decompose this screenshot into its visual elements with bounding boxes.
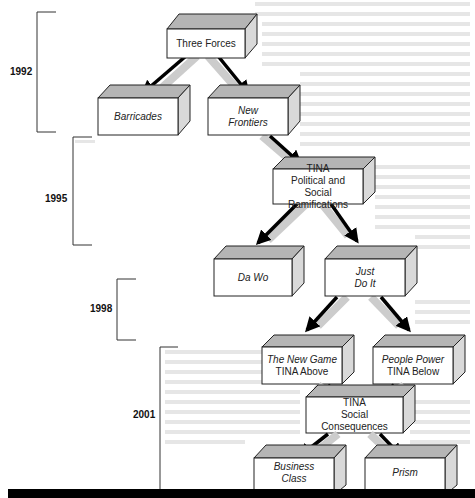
label-line: People Power <box>382 354 444 366</box>
year-label-2001: 2001 <box>133 409 155 420</box>
label-line: Prism <box>392 467 418 479</box>
label-line: TINA Below <box>387 366 439 378</box>
label-new-game: The New Game TINA Above <box>262 347 342 384</box>
label-line: Barricades <box>114 111 162 123</box>
label-new-frontiers: New Frontiers <box>208 98 288 135</box>
label-line: Consequences <box>321 421 388 433</box>
year-label-1998: 1998 <box>90 303 112 314</box>
label-just-do-it: Just Do It <box>325 259 405 296</box>
label-line: The New Game <box>267 354 337 366</box>
label-line: New <box>238 105 258 117</box>
label-prism: Prism <box>365 458 445 488</box>
label-line: TINA Above <box>276 366 329 378</box>
year-label-1992: 1992 <box>10 66 32 77</box>
label-tina-social: TINA Social Consequences <box>306 397 403 433</box>
label-line: Just <box>356 266 374 278</box>
label-line: Political and <box>291 175 345 187</box>
diagram-foreground <box>0 0 475 498</box>
label-people-power: People Power TINA Below <box>373 347 453 384</box>
label-tina-political: TINA Political and Social Ramifications <box>273 169 363 204</box>
label-line: Three Forces <box>176 38 235 50</box>
bottom-black-bar <box>8 489 475 498</box>
label-line: TINA <box>343 397 366 409</box>
label-three-forces: Three Forces <box>167 29 245 58</box>
label-line: Business <box>274 461 315 473</box>
label-da-wo: Da Wo <box>214 259 292 296</box>
label-line: Social <box>341 409 368 421</box>
label-business-class: Business Class <box>254 458 334 488</box>
label-line: Class <box>281 473 306 485</box>
label-line: Social Ramifications <box>273 187 363 211</box>
label-line: Frontiers <box>228 117 267 129</box>
label-line: TINA <box>307 163 330 175</box>
label-line: Da Wo <box>238 272 269 284</box>
year-label-1995: 1995 <box>45 193 67 204</box>
label-line: Do It <box>354 278 375 290</box>
label-barricades: Barricades <box>98 98 178 135</box>
